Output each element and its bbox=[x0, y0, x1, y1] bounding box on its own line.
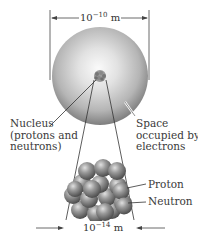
neutron-particle bbox=[116, 198, 133, 215]
nucleus-size-label: 10−14 m bbox=[82, 221, 124, 233]
electron-space-label: Space occupied by electrons bbox=[136, 118, 198, 153]
nucleus-enlarged bbox=[64, 159, 133, 223]
arrow-right-icon bbox=[142, 16, 148, 20]
arrow-right-icon bbox=[58, 226, 64, 230]
proton-label: Proton bbox=[148, 179, 184, 191]
proton-leader-line bbox=[127, 184, 146, 188]
neutron-label: Neutron bbox=[148, 196, 193, 208]
arrow-left-icon bbox=[51, 16, 57, 20]
nucleus-label: Nucleus (protons and neutrons) bbox=[10, 118, 78, 153]
proton-particle bbox=[113, 183, 130, 200]
arrow-left-icon bbox=[136, 226, 142, 230]
atom-size-label: 10−10 m bbox=[79, 11, 121, 23]
